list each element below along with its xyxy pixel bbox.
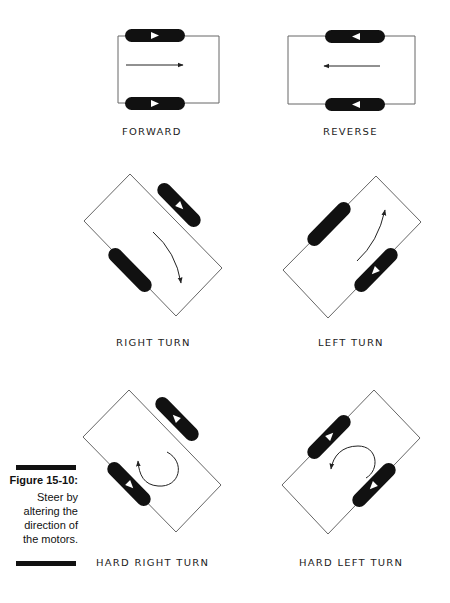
- label-left-turn: LEFT TURN: [318, 337, 384, 348]
- rotate-arrow-icon: [331, 446, 375, 478]
- caption-line-3: direction of: [24, 518, 78, 532]
- diagram-hard-right-turn: [83, 390, 221, 532]
- caption-rule-bottom: [16, 561, 76, 566]
- label-forward: FORWARD: [122, 126, 182, 137]
- curved-arrow-icon: [153, 232, 181, 283]
- diagram-reverse: [288, 30, 415, 111]
- curved-arrow-icon: [357, 210, 385, 261]
- caption-line-1: Steer by: [37, 490, 78, 504]
- caption-line-4: the motors.: [23, 532, 78, 546]
- figure-number: Figure 15-10:: [10, 474, 78, 486]
- rotate-arrow-icon: [138, 452, 178, 486]
- caption-rule-top: [16, 465, 76, 470]
- label-hard-right-turn: HARD RIGHT TURN: [96, 557, 209, 568]
- label-hard-left-turn: HARD LEFT TURN: [299, 557, 403, 568]
- label-right-turn: RIGHT TURN: [116, 337, 191, 348]
- diagram-hard-left-turn: [282, 390, 420, 534]
- diagram-right-turn: [84, 174, 222, 316]
- label-reverse: REVERSE: [323, 126, 378, 137]
- diagram-left-turn: [283, 176, 421, 318]
- caption-line-2: altering the: [24, 504, 78, 518]
- diagram-forward: [118, 29, 219, 110]
